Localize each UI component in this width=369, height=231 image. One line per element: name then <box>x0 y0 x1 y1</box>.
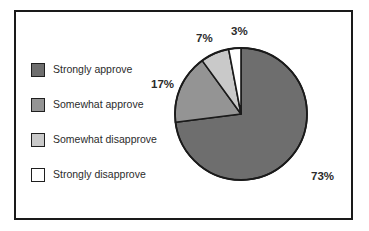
legend-item-strongly-disapprove[interactable]: Strongly disapprove <box>31 157 181 192</box>
legend-item-strongly-approve[interactable]: Strongly approve <box>31 52 181 87</box>
legend-item-label: Somewhat approve <box>53 99 143 110</box>
chart-legend: Strongly approve Somewhat approve Somewh… <box>31 52 181 192</box>
pie-chart-figure: Strongly approve Somewhat approve Somewh… <box>0 0 369 231</box>
legend-item-label: Strongly approve <box>53 64 132 75</box>
legend-swatch-icon <box>31 63 45 77</box>
legend-item-somewhat-approve[interactable]: Somewhat approve <box>31 87 181 122</box>
legend-swatch-icon <box>31 168 45 182</box>
legend-swatch-icon <box>31 133 45 147</box>
legend-item-label: Somewhat disapprove <box>53 134 157 145</box>
legend-item-somewhat-disapprove[interactable]: Somewhat disapprove <box>31 122 181 157</box>
legend-swatch-icon <box>31 98 45 112</box>
legend-item-label: Strongly disapprove <box>53 169 146 180</box>
